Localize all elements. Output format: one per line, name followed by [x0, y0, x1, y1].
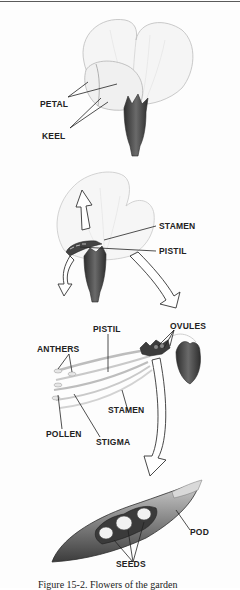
label-pod: POD [190, 528, 209, 537]
label-stigma: STIGMA [96, 438, 130, 447]
label-ovules: OVULES [170, 322, 206, 331]
figure-caption: Figure 15-2. Flowers of the garden [38, 580, 177, 590]
label-petal: PETAL [40, 100, 68, 109]
label-stamen-opened: STAMEN [159, 222, 195, 231]
label-pistil-parts: PISTIL [93, 325, 121, 334]
label-anthers: ANTHERS [37, 345, 80, 354]
pea-pod-illustration [52, 480, 202, 562]
label-keel: KEEL [42, 132, 65, 141]
label-stamen-parts: STAMEN [108, 406, 144, 415]
label-pollen: POLLEN [46, 430, 82, 439]
label-seeds: SEEDS [116, 560, 146, 569]
label-pistil-opened: PISTIL [159, 247, 187, 256]
opened-flower-illustration [57, 172, 180, 308]
intact-flower-illustration [68, 19, 193, 156]
